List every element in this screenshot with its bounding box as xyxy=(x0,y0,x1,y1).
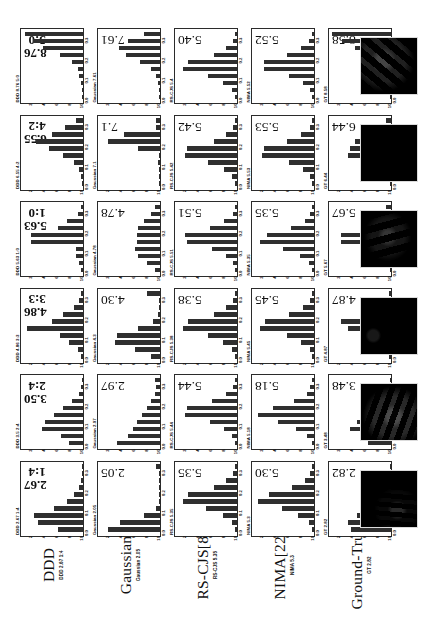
chart-panel[interactable]: DDD 4.86 3:34.863:30.30.20.10.0246810 xyxy=(20,288,84,364)
bar xyxy=(214,53,237,57)
bar-series xyxy=(98,206,160,274)
score-tick-label: 4 xyxy=(195,536,200,538)
chart-panel[interactable]: RS-CJS 5.445.440.30.20.10.0246810 xyxy=(174,375,238,451)
bar xyxy=(34,513,83,517)
bar xyxy=(264,146,314,150)
chart-panel[interactable]: NIMA 5.185.180.30.20.10.0246810 xyxy=(251,375,315,451)
bar xyxy=(310,385,314,389)
bar xyxy=(210,420,237,424)
chart-panel[interactable]: NIMA 5.355.350.30.20.10.0246810 xyxy=(251,202,315,278)
score-tick-label: 4 xyxy=(41,536,46,538)
probability-tick-label: 0.3 xyxy=(161,124,166,130)
score-tick-label: 2 xyxy=(259,450,264,452)
score-axis: 246810 xyxy=(98,363,160,373)
score-tick-label: 6 xyxy=(208,277,213,279)
score-tick-label: 8 xyxy=(221,536,226,538)
score-tick-label: 10 xyxy=(310,190,315,195)
bar xyxy=(185,233,237,237)
chart-panel[interactable]: DDD 8.76 5:08.765:00.30.20.10.0246810 xyxy=(20,29,84,105)
score-tick-label: 8 xyxy=(144,190,149,192)
bar-series xyxy=(21,379,83,447)
bar xyxy=(156,74,160,78)
bar xyxy=(183,67,237,71)
bar xyxy=(226,392,237,396)
bar xyxy=(289,160,314,164)
bar xyxy=(289,74,314,78)
thumbnail-image xyxy=(360,297,418,355)
bar xyxy=(76,247,83,251)
probability-axis: 0.30.20.10.0 xyxy=(161,379,168,447)
chart-panel[interactable]: RS-CJS 5.45.400.30.20.10.0246810 xyxy=(174,29,238,105)
chart-panel[interactable]: Gaussian 4.784.780.30.20.10.0246810 xyxy=(97,202,161,278)
probability-axis: 0.30.20.10.0 xyxy=(238,379,245,447)
probability-tick-label: 0.2 xyxy=(238,404,243,410)
chart-panel[interactable]: NIMA 5.525.520.30.20.10.0246810 xyxy=(251,29,315,105)
chart-panel[interactable]: Gaussian 4.34.300.30.20.10.0246810 xyxy=(97,288,161,364)
bar xyxy=(278,420,314,424)
probability-tick-label: 0.1 xyxy=(161,337,166,343)
bar xyxy=(208,74,237,78)
bar xyxy=(305,219,314,223)
score-tick-label: 2 xyxy=(182,190,187,192)
bar xyxy=(45,420,83,424)
score-tick-label: 6 xyxy=(208,450,213,452)
probability-tick-label: 0.2 xyxy=(161,144,166,150)
bar-series xyxy=(21,206,83,274)
chart-panel[interactable]: DDD 2.67 1:42.671:40.30.20.10.0246810 xyxy=(20,461,84,537)
score-tick-label: 8 xyxy=(67,104,72,106)
bar-series xyxy=(252,465,314,533)
score-tick-label: 10 xyxy=(233,104,238,109)
chart-panel[interactable]: DDD 3.5 2:43.502:40.30.20.10.0246810 xyxy=(20,375,84,451)
thumbnail-image xyxy=(360,124,418,182)
score-axis: 246810 xyxy=(98,450,160,460)
score-tick-label: 4 xyxy=(349,363,354,365)
score-tick-label: 8 xyxy=(298,536,303,538)
score-tick-label: 2 xyxy=(336,450,341,452)
bar xyxy=(52,132,83,136)
score-tick-label: 2 xyxy=(336,536,341,538)
bar xyxy=(307,392,314,396)
chart-panel[interactable]: DDD 6.55 4:26.554:20.30.20.10.0246810 xyxy=(20,115,84,191)
chart-panel[interactable]: NIMA 5.535.530.30.20.10.0246810 xyxy=(251,115,315,191)
score-tick-label: 10 xyxy=(310,277,315,282)
bar xyxy=(310,212,314,216)
chart-panel[interactable]: NIMA 5.35.300.30.20.10.0246810 xyxy=(251,461,315,537)
probability-tick-label: 0.1 xyxy=(84,251,89,257)
panel-title: NIMA 5.52 xyxy=(246,81,251,102)
chart-panel[interactable]: RS-CJS 5.425.420.30.20.10.0246810 xyxy=(174,115,238,191)
bar xyxy=(309,261,314,265)
chart-panel[interactable]: DDD 5.63 1:05.631:00.30.20.10.0246810 xyxy=(20,202,84,278)
score-tick-label: 6 xyxy=(208,536,213,538)
chart-panel[interactable]: Gaussian 7.617.610.30.20.10.0246810 xyxy=(97,29,161,105)
chart-panel[interactable]: Gaussian 2.972.970.30.20.10.0246810 xyxy=(97,375,161,451)
probability-tick-label: 0.3 xyxy=(238,38,243,44)
bar xyxy=(292,485,314,489)
score-tick-label: 2 xyxy=(105,190,110,192)
score-tick-label: 8 xyxy=(144,104,149,106)
chart-panel[interactable]: RS-CJS 5.515.510.30.20.10.0246810 xyxy=(174,202,238,278)
bar-series xyxy=(175,119,237,187)
bar-series xyxy=(252,206,314,274)
bar xyxy=(214,312,237,316)
probability-tick-label: 0.2 xyxy=(84,317,89,323)
chart-panel[interactable]: Gaussian 7.17.10.30.20.10.0246810 xyxy=(97,115,161,191)
score-tick-label: 10 xyxy=(79,536,84,541)
score-tick-label: 4 xyxy=(41,450,46,452)
bar xyxy=(69,441,83,445)
chart-panel[interactable]: RS-CJS 5.355.350.30.20.10.0246810 xyxy=(174,461,238,537)
score-axis: 246810 xyxy=(98,104,160,114)
bar xyxy=(63,406,83,410)
score-axis: 246810 xyxy=(175,363,237,373)
chart-panel[interactable]: RS-CJS 5.385.380.30.20.10.0246810 xyxy=(174,288,238,364)
bar-series xyxy=(252,292,314,360)
score-axis: 246810 xyxy=(175,104,237,114)
bar xyxy=(303,167,314,171)
chart-panel[interactable]: NIMA 5.455.450.30.20.10.0246810 xyxy=(251,288,315,364)
bar xyxy=(43,46,83,50)
bar xyxy=(208,333,237,337)
score-tick-label: 6 xyxy=(131,277,136,279)
panel-title: NIMA 5.45 xyxy=(246,341,251,362)
chart-panel[interactable]: Gaussian 2.052.050.30.20.10.0246810 xyxy=(97,461,161,537)
score-tick-label: 10 xyxy=(310,450,315,455)
panel-title: Gaussian 4.78 xyxy=(92,245,97,275)
